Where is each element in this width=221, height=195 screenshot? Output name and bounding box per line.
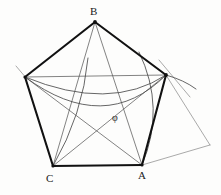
upper-lens-arc xyxy=(25,75,166,106)
angle-label-phi: φ xyxy=(112,113,118,123)
vertex-dot-c xyxy=(51,164,54,167)
edge-c-a xyxy=(53,165,142,166)
line-t-to-r xyxy=(166,75,210,145)
thin-construction-lines xyxy=(16,22,210,166)
vertex-dot-l xyxy=(23,75,26,78)
line-b-to-c xyxy=(53,22,95,166)
line-a-to-t xyxy=(142,145,210,165)
tick-right-vertex xyxy=(159,60,190,97)
figure-canvas xyxy=(0,0,221,195)
vertex-label-a: A xyxy=(138,170,146,181)
line-b-to-a xyxy=(95,22,142,165)
vertex-dot-b xyxy=(93,20,97,24)
vertex-label-b: B xyxy=(90,6,97,17)
edge-r-b xyxy=(95,22,166,75)
vertex-dot-r xyxy=(164,73,168,77)
edge-l-c xyxy=(25,77,53,166)
line-c-to-r xyxy=(53,75,166,166)
arc-to-c xyxy=(53,58,88,166)
geometry-figure: B C A φ xyxy=(0,0,221,195)
edge-a-r xyxy=(142,75,166,165)
line-l-to-r xyxy=(25,75,166,77)
vertex-label-c: C xyxy=(46,173,53,184)
line-l-to-a xyxy=(25,77,142,165)
vertex-dot-a xyxy=(140,163,143,166)
edge-b-l xyxy=(25,22,95,77)
